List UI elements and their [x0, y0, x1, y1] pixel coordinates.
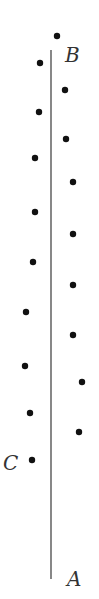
- dot-group: [22, 33, 85, 463]
- dot: [79, 379, 85, 385]
- dot: [54, 33, 60, 39]
- dot: [36, 109, 42, 115]
- label-a: A: [65, 567, 81, 591]
- label-c: C: [3, 451, 18, 475]
- label-b: B: [64, 43, 80, 67]
- dot: [70, 179, 76, 185]
- dot: [37, 60, 43, 66]
- dot: [32, 155, 38, 161]
- dot: [76, 429, 82, 435]
- dot: [32, 209, 38, 215]
- dot: [23, 309, 29, 315]
- dot: [22, 363, 28, 369]
- dot: [30, 259, 36, 265]
- dot: [27, 410, 33, 416]
- dot: [70, 282, 76, 288]
- dot: [29, 457, 35, 463]
- dot: [70, 332, 76, 338]
- dot: [70, 231, 76, 237]
- dot: [63, 136, 69, 142]
- point-line-diagram: B C A: [0, 0, 99, 599]
- dot: [62, 87, 68, 93]
